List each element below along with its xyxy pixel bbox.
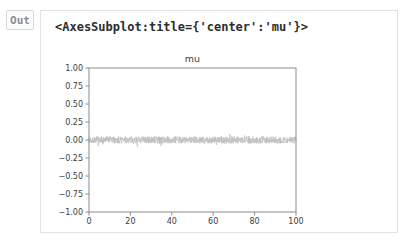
- y-axis-tick-label: −1.00: [58, 208, 83, 217]
- y-axis-tick-label: 0.25: [65, 118, 83, 127]
- y-axis-tick-label: 0.50: [65, 100, 83, 109]
- output-area: <AxesSubplot:title={'center':'mu'}> mu02…: [40, 10, 398, 233]
- x-axis-tick-label: 100: [288, 217, 303, 226]
- x-axis-tick-label: 40: [167, 217, 177, 226]
- notebook-output-cell: Out <AxesSubplot:title={'center':'mu'}> …: [0, 0, 407, 243]
- x-axis-tick-label: 0: [86, 217, 91, 226]
- y-axis-tick-label: −0.75: [58, 190, 83, 199]
- y-axis-tick-label: 0.00: [65, 136, 83, 145]
- y-axis-tick-label: 1.00: [65, 64, 83, 73]
- out-label: Out: [6, 10, 34, 30]
- x-axis-tick-label: 80: [250, 217, 260, 226]
- x-axis-tick-label: 20: [125, 217, 135, 226]
- chart-title: mu: [185, 53, 200, 64]
- y-axis-tick-label: −0.25: [58, 154, 83, 163]
- y-axis-tick-label: 0.75: [65, 82, 83, 91]
- matplotlib-figure: mu0204060801001.000.750.500.250.00−0.25−…: [41, 11, 399, 234]
- noise-line-series: [89, 134, 296, 146]
- y-axis-tick-label: −0.50: [58, 172, 83, 181]
- x-axis-tick-label: 60: [208, 217, 218, 226]
